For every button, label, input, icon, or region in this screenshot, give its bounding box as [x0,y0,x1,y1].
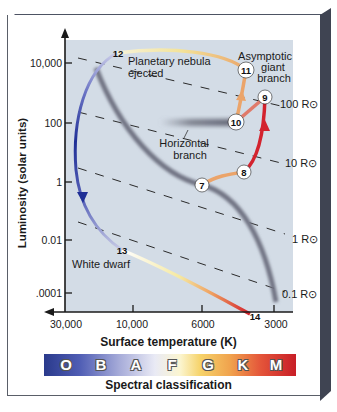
radius-label-1: 1 R⊙ [292,233,318,245]
spectral-class-f: F [160,354,184,376]
x-tick-10000: 10,000 [116,318,148,330]
stage-14: 14 [250,311,261,322]
stage-13: 13 [117,245,128,256]
svg-text:9: 9 [262,92,267,103]
planetary-nebula-label: Planetary nebula [128,55,211,67]
y-tick-10000: 10,000 [30,57,62,69]
svg-text:7: 7 [199,180,204,191]
horizontal-branch-label: Horizontal [159,137,209,149]
y-tick-100: 100 [44,117,62,129]
y-tick-1: 1 [56,176,62,188]
spectral-classification-caption: Spectral classification [0,378,337,392]
hr-diagram: 10,000 100 1 0.01 .0001 30,000 10,000 60… [0,0,337,412]
y-tick-0-01: 0.01 [42,234,63,246]
x-axis-label: Surface temperature (K) [0,335,337,349]
spectral-class-m: M [264,354,288,376]
stage-8: 8 [237,165,251,179]
y-tick-labels: 10,000 100 1 0.01 .0001 [30,57,62,299]
spectral-class-a: A [124,354,148,376]
white-dwarf-label: White dwarf [72,258,131,270]
x-axis-arrow-icon [44,308,54,316]
spectral-class-g: G [196,354,220,376]
agb-label-3: branch [257,72,291,84]
svg-text:14: 14 [250,311,261,322]
spectral-class-k: K [231,354,255,376]
svg-text:13: 13 [117,245,128,256]
svg-text:10: 10 [231,117,242,128]
x-tick-6000: 6000 [191,318,215,330]
svg-text:12: 12 [113,48,124,59]
radius-label-100: 100 R⊙ [280,98,318,110]
stage-10: 10 [228,114,244,130]
spectral-class-o: O [54,354,78,376]
horizontal-branch-label-2: branch [173,149,207,161]
planetary-nebula-label-2: ejected [128,67,163,79]
stage-11: 11 [238,62,254,78]
y-axis-label: Luminosity (solar units) [16,118,28,249]
radius-label-0-1: 0.1 R⊙ [282,288,317,300]
svg-text:8: 8 [241,167,246,178]
x-tick-3000: 3000 [264,318,288,330]
stage-9: 9 [258,90,272,104]
horizontal-branch-band [160,119,238,126]
x-tick-30000: 30,000 [50,318,82,330]
y-tick-0-0001: .0001 [36,287,62,299]
y-axis-arrow-icon [61,28,69,38]
svg-text:11: 11 [241,65,252,76]
stage-7: 7 [195,178,209,192]
stage-12: 12 [113,48,124,59]
spectral-class-b: B [89,354,113,376]
radius-label-10: 10 R⊙ [285,157,317,169]
